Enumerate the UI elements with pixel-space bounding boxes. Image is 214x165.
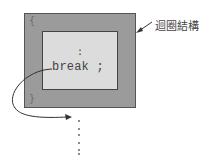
- label-pointer-arrow: [136, 22, 152, 33]
- continuation-dots: [78, 120, 80, 155]
- break-exit-arrow: [12, 69, 72, 120]
- diagram-arrows: [0, 0, 214, 165]
